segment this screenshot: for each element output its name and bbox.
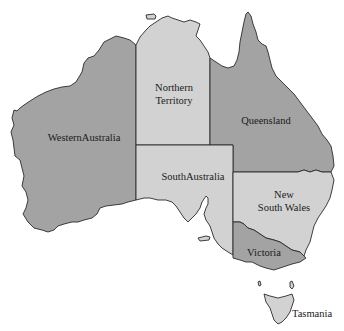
label-western-australia: WesternAustralia [48, 131, 121, 144]
label-northern-territory: Northern Territory [155, 81, 193, 107]
label-queensland-text: Queensland [241, 115, 291, 126]
label-victoria: Victoria [247, 246, 281, 259]
island-melville [146, 14, 156, 19]
label-northern-territory-line2: Territory [155, 94, 193, 107]
label-tasmania-text: Tasmania [292, 308, 332, 319]
label-south-australia: SouthAustralia [162, 170, 225, 183]
label-queensland: Queensland [241, 114, 291, 127]
label-western-australia-text: WesternAustralia [48, 132, 121, 143]
label-new-south-wales-line1: New [258, 188, 310, 201]
label-new-south-wales: New South Wales [258, 188, 310, 214]
australia-map: WesternAustralia Northern Territory Quee… [0, 0, 344, 331]
map-canvas [0, 0, 344, 331]
label-new-south-wales-line2: South Wales [258, 201, 310, 214]
label-tasmania: Tasmania [292, 307, 332, 320]
island-flinders [290, 281, 294, 289]
region-south-australia[interactable] [136, 145, 233, 255]
region-tasmania[interactable] [264, 294, 294, 324]
label-south-australia-text: SouthAustralia [162, 171, 225, 182]
island-kangaroo [198, 236, 210, 241]
island-king [258, 281, 261, 286]
label-victoria-text: Victoria [247, 247, 281, 258]
label-northern-territory-line1: Northern [155, 81, 193, 94]
